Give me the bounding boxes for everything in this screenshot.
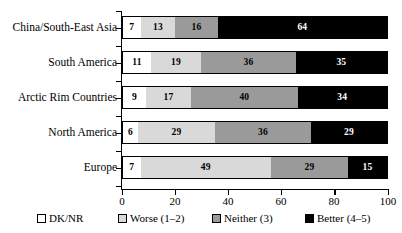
legend-item-dknr: DK/NR bbox=[37, 213, 83, 224]
bar-segment-neither: 36 bbox=[201, 51, 296, 74]
bar-segment-better: 64 bbox=[218, 16, 388, 39]
category-label: North America bbox=[0, 127, 117, 139]
bar-segment-worse: 29 bbox=[138, 121, 215, 144]
bar-row: 9 17 40 34 bbox=[122, 86, 388, 109]
legend-item-neither: Neither (3) bbox=[212, 213, 273, 224]
bar-segment-dknr: 7 bbox=[122, 156, 141, 179]
bar-segment-dknr: 7 bbox=[122, 16, 141, 39]
stacked-bar-chart: China/South-East Asia South America Arct… bbox=[0, 0, 402, 233]
bar-segment-better: 15 bbox=[348, 156, 388, 179]
bar-segment-better: 34 bbox=[298, 86, 388, 109]
bar-segment-better: 35 bbox=[296, 51, 388, 74]
bar-segment-better: 29 bbox=[311, 121, 388, 144]
x-axis-tick-label: 20 bbox=[155, 196, 195, 207]
bar-segment-dknr: 9 bbox=[122, 86, 146, 109]
bar-segment-neither: 36 bbox=[215, 121, 311, 144]
legend-item-better: Better (4–5) bbox=[305, 213, 370, 224]
bar-segment-dknr: 11 bbox=[122, 51, 151, 74]
x-axis-tick-label: 100 bbox=[368, 196, 402, 207]
bar-row: 11 19 36 35 bbox=[122, 51, 388, 74]
legend-label: Worse (1–2) bbox=[130, 213, 184, 224]
bar-segment-worse: 13 bbox=[141, 16, 176, 39]
bar-row: 6 29 36 29 bbox=[122, 121, 388, 144]
legend-swatch-dknr-icon bbox=[37, 214, 46, 223]
x-axis-tick-label: 80 bbox=[314, 196, 354, 207]
x-axis-tick-label: 40 bbox=[208, 196, 248, 207]
legend-label: Neither (3) bbox=[224, 213, 273, 224]
category-label: Arctic Rim Countries bbox=[0, 92, 117, 104]
bar-segment-neither: 40 bbox=[191, 86, 297, 109]
bar-row: 7 49 29 15 bbox=[122, 156, 388, 179]
category-label: China/South-East Asia bbox=[0, 22, 117, 34]
bar-segment-worse: 19 bbox=[151, 51, 201, 74]
category-label: South America bbox=[0, 57, 117, 69]
bar-segment-worse: 17 bbox=[146, 86, 191, 109]
legend-swatch-worse-icon bbox=[118, 214, 127, 223]
legend-swatch-neither-icon bbox=[212, 214, 221, 223]
legend-swatch-better-icon bbox=[305, 214, 314, 223]
x-axis-tick-label: 0 bbox=[102, 196, 142, 207]
bar-segment-neither: 16 bbox=[175, 16, 218, 39]
legend-label: DK/NR bbox=[49, 213, 83, 224]
legend-label: Better (4–5) bbox=[317, 213, 370, 224]
plot-area: 7 13 16 64 11 19 36 35 9 17 40 34 6 29 3… bbox=[122, 11, 388, 190]
chart-legend: DK/NR Worse (1–2) Neither (3) Better (4–… bbox=[0, 213, 402, 233]
bar-row: 7 13 16 64 bbox=[122, 16, 388, 39]
x-axis-tick-label: 60 bbox=[261, 196, 301, 207]
bar-segment-worse: 49 bbox=[141, 156, 271, 179]
category-label: Europe bbox=[0, 162, 117, 174]
bar-segment-dknr: 6 bbox=[122, 121, 138, 144]
legend-item-worse: Worse (1–2) bbox=[118, 213, 184, 224]
bar-segment-neither: 29 bbox=[271, 156, 348, 179]
